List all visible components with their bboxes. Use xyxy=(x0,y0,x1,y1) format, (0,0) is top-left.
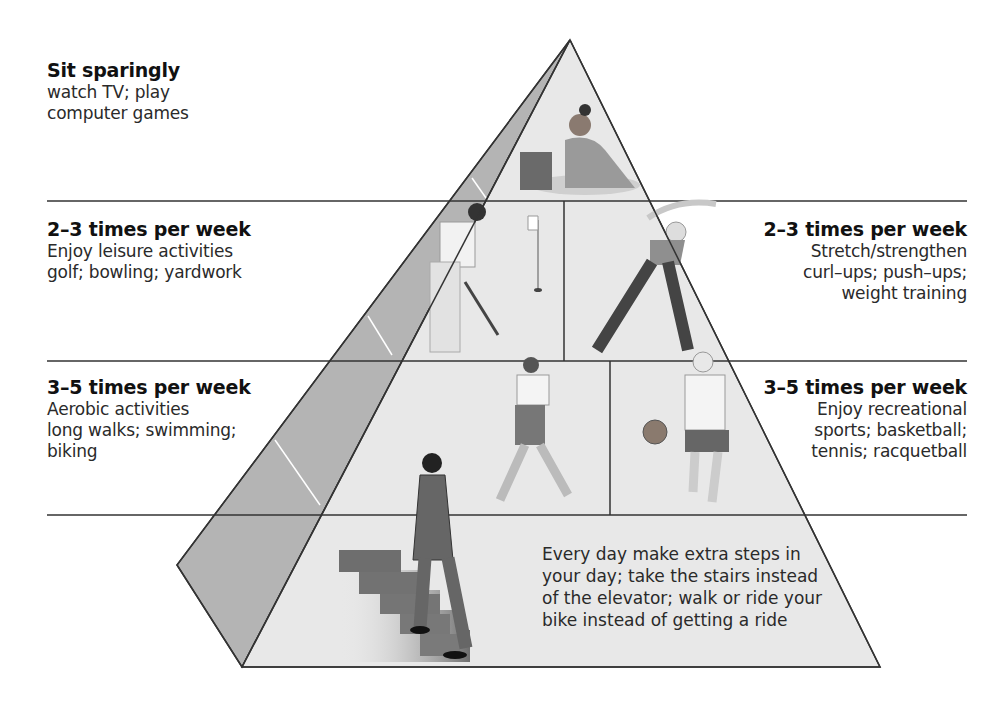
tier-line: bike instead of getting a ride xyxy=(542,609,862,631)
tier-line: biking xyxy=(47,441,251,462)
tier-heading: 2–3 times per week xyxy=(47,218,251,241)
tier-recreational-label: 3–5 times per week Enjoy recreational sp… xyxy=(763,376,967,462)
tier-line: golf; bowling; yardwork xyxy=(47,262,251,283)
tier-line: weight training xyxy=(763,283,967,304)
tier-line: Enjoy leisure activities xyxy=(47,241,251,262)
tier-line: Enjoy recreational xyxy=(763,399,967,420)
tier-line: tennis; racquetball xyxy=(763,441,967,462)
tier-heading: Sit sparingly xyxy=(47,59,189,82)
tier-line: computer games xyxy=(47,103,189,124)
tier-line: sports; basketball; xyxy=(763,420,967,441)
tier-line: Aerobic activities xyxy=(47,399,251,420)
tier-line: Every day make extra steps in xyxy=(542,543,862,565)
tier-line: of the elevator; walk or ride your xyxy=(542,587,862,609)
tier-every-day-text: Every day make extra steps in your day; … xyxy=(542,543,862,631)
tier-line: watch TV; play xyxy=(47,82,189,103)
tier-line: curl–ups; push–ups; xyxy=(763,262,967,283)
tier-sit-sparingly-label: Sit sparingly watch TV; play computer ga… xyxy=(47,59,189,124)
tier-line: your day; take the stairs instead xyxy=(542,565,862,587)
tier-heading: 2–3 times per week xyxy=(763,218,967,241)
tier-stretch-label: 2–3 times per week Stretch/strengthen cu… xyxy=(763,218,967,304)
tier-heading: 3–5 times per week xyxy=(47,376,251,399)
tier-aerobic-label: 3–5 times per week Aerobic activities lo… xyxy=(47,376,251,462)
tier-heading: 3–5 times per week xyxy=(763,376,967,399)
tier-leisure-label: 2–3 times per week Enjoy leisure activit… xyxy=(47,218,251,283)
tier-line: Stretch/strengthen xyxy=(763,241,967,262)
tier-line: long walks; swimming; xyxy=(47,420,251,441)
